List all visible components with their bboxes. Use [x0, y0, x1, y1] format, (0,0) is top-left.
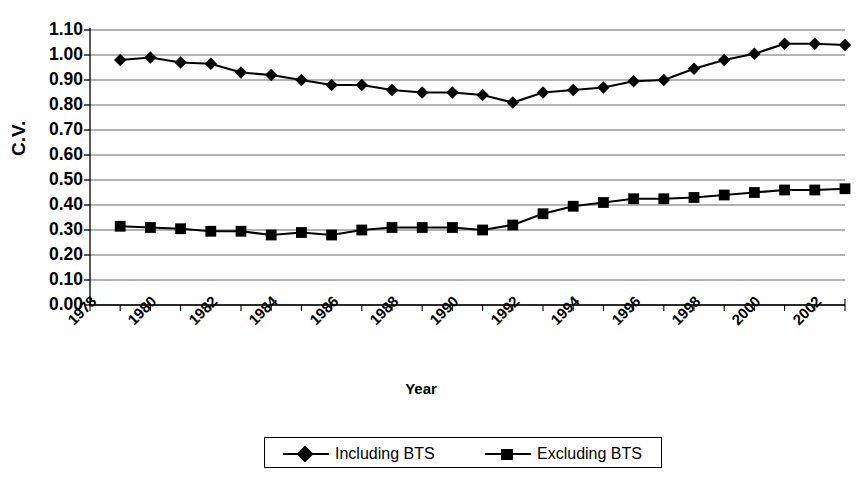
square-marker-icon	[485, 445, 531, 463]
legend-item-excluding-bts: Excluding BTS	[485, 438, 642, 469]
line-chart: C.V. Year 1.101.000.900.800.700.600.500.…	[0, 0, 856, 486]
legend-label: Excluding BTS	[537, 445, 642, 463]
legend-label: Including BTS	[335, 445, 435, 463]
chart-root: C.V. Year 1.101.000.900.800.700.600.500.…	[0, 0, 856, 486]
chart-legend: Including BTS Excluding BTS	[264, 437, 662, 468]
plot-canvas	[0, 0, 856, 486]
legend-item-including-bts: Including BTS	[283, 438, 435, 469]
diamond-marker-icon	[283, 445, 329, 463]
